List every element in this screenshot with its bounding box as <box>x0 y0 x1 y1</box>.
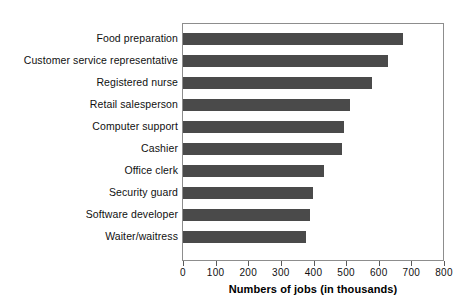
category-label: Customer service representative <box>24 54 178 66</box>
x-tick-mark <box>314 261 315 266</box>
category-label: Software developer <box>86 208 178 220</box>
x-tick-label: 400 <box>305 267 323 279</box>
x-tick-mark <box>216 261 217 266</box>
bar-row <box>183 231 306 243</box>
x-axis-title: Numbers of jobs (in thousands) <box>182 283 444 295</box>
bar-row <box>183 165 324 177</box>
bar-row <box>183 121 344 133</box>
x-tick-label: 700 <box>403 267 421 279</box>
x-tick-label: 500 <box>337 267 355 279</box>
bar <box>183 209 310 221</box>
category-label: Cashier <box>141 142 178 154</box>
bar <box>183 143 342 155</box>
x-tick-label: 200 <box>239 267 257 279</box>
bar <box>183 99 350 111</box>
x-tick-label: 300 <box>272 267 290 279</box>
x-tick-label: 100 <box>207 267 225 279</box>
bar <box>183 33 403 45</box>
bar-row <box>183 143 342 155</box>
x-tick-mark <box>281 261 282 266</box>
category-label: Computer support <box>92 120 178 132</box>
x-tick-mark <box>379 261 380 266</box>
bar <box>183 187 313 199</box>
bar-row <box>183 209 310 221</box>
x-tick-label: 0 <box>180 267 186 279</box>
category-label: Waiter/waitress <box>105 230 178 242</box>
x-tick-mark <box>444 261 445 266</box>
category-label: Food preparation <box>96 32 178 44</box>
x-tick-label: 600 <box>370 267 388 279</box>
bar <box>183 165 324 177</box>
bar-row <box>183 99 350 111</box>
category-label: Registered nurse <box>96 76 178 88</box>
bar-row <box>183 33 403 45</box>
category-label: Retail salesperson <box>90 98 178 110</box>
x-tick-mark <box>248 261 249 266</box>
bar-chart: Food preparationCustomer service represe… <box>0 0 467 304</box>
bar <box>183 55 388 67</box>
category-label: Security guard <box>109 186 178 198</box>
bar-row <box>183 77 372 89</box>
x-tick-mark <box>411 261 412 266</box>
category-label: Office clerk <box>124 164 178 176</box>
x-tick-mark <box>346 261 347 266</box>
x-tick-mark <box>183 261 184 266</box>
bar-row <box>183 187 313 199</box>
bar <box>183 231 306 243</box>
bar <box>183 77 372 89</box>
bar <box>183 121 344 133</box>
bar-row <box>183 55 388 67</box>
x-tick-label: 800 <box>435 267 453 279</box>
